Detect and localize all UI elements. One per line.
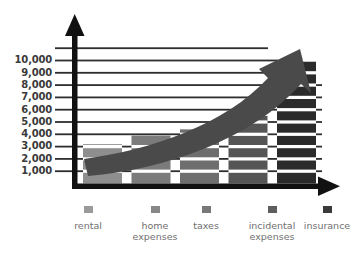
legend-swatch-icon xyxy=(151,206,160,213)
legend-label: rental xyxy=(60,220,116,231)
y-axis-tick-label: 3,000 xyxy=(0,141,52,151)
legend-item[interactable]: taxes xyxy=(178,206,234,231)
legend-item[interactable]: insurance xyxy=(295,206,359,231)
chart-legend: rentalhomeexpensestaxesincidentalexpense… xyxy=(0,206,361,265)
bar-gridline-gap xyxy=(277,120,316,123)
bar-gridline-gap xyxy=(277,145,316,148)
gridline xyxy=(55,60,278,62)
y-axis-tick-label: 5,000 xyxy=(0,117,52,127)
bar-gridline-gap xyxy=(277,157,316,160)
gridline xyxy=(55,72,288,74)
legend-swatch-icon xyxy=(268,206,277,213)
bar-gridline-gap xyxy=(277,133,316,136)
y-axis-tick-label: 4,000 xyxy=(0,129,52,139)
gridline xyxy=(55,47,268,49)
y-axis-tick-label: 1,000 xyxy=(0,166,52,176)
y-axis xyxy=(65,14,85,187)
bar-gridline-gap xyxy=(180,170,219,173)
arrow-right-icon xyxy=(318,177,340,197)
legend-label: insurance xyxy=(295,220,359,231)
legend-label-line2: expenses xyxy=(235,231,309,242)
bar-gridline-gap xyxy=(132,170,171,173)
y-axis-tick-label: 6,000 xyxy=(0,105,52,115)
legend-swatch-icon xyxy=(323,206,332,213)
y-axis-tick-label: 7,000 xyxy=(0,92,52,102)
y-axis-tick-label: 2,000 xyxy=(0,154,52,164)
y-axis-tick-label: 8,000 xyxy=(0,80,52,90)
legend-item[interactable]: rental xyxy=(60,206,116,231)
bar-gridline-gap xyxy=(83,145,122,148)
legend-swatch-icon xyxy=(84,206,93,213)
bar-gridline-gap xyxy=(229,170,268,173)
bar-gridline-gap xyxy=(277,170,316,173)
y-axis-tick-label: 9,000 xyxy=(0,68,52,78)
bar-gridline-gap xyxy=(277,108,316,111)
bar-gridline-gap xyxy=(229,157,268,160)
legend-swatch-icon xyxy=(202,206,211,213)
bar-gridline-gap xyxy=(229,145,268,148)
bar-gridline-gap xyxy=(180,157,219,160)
arrow-up-icon xyxy=(65,14,85,36)
legend-label: taxes xyxy=(178,220,234,231)
y-axis-tick-label: 10,000 xyxy=(0,55,52,65)
legend-label-line2: expenses xyxy=(120,231,190,242)
chart-container: 1,0002,0003,0004,0005,0006,0007,0008,000… xyxy=(0,0,361,265)
